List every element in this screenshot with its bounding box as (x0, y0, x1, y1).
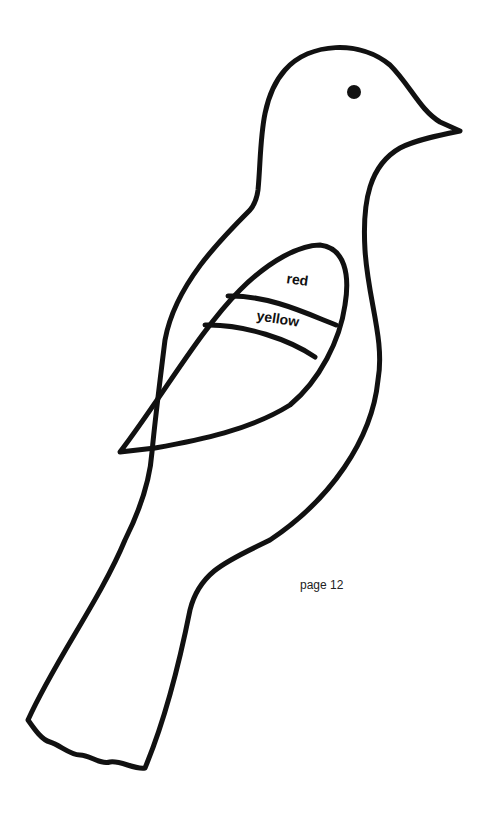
page-number-label: page 12 (300, 578, 343, 592)
bird-eye-icon (347, 85, 361, 99)
bird-outline-drawing: red yellow (0, 0, 493, 813)
wing-label-red: red (286, 270, 310, 289)
bird-body-outline (28, 48, 460, 769)
wing-band-line-bottom (205, 325, 315, 357)
coloring-page: red yellow page 12 (0, 0, 493, 813)
